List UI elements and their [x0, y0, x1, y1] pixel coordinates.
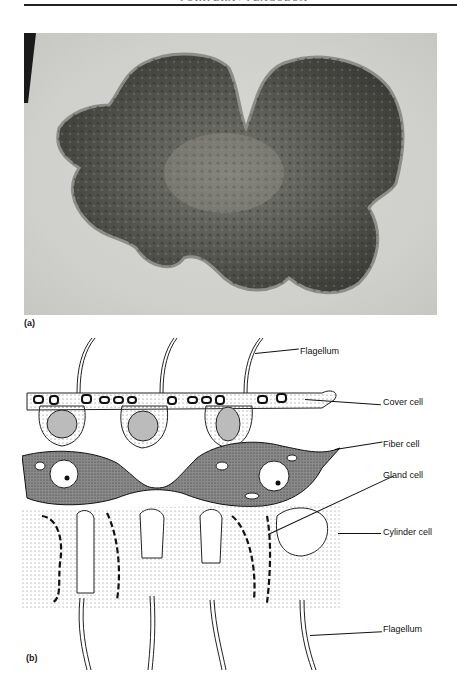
running-header: PORIFERA / PLACOZOA [180, 0, 308, 3]
leader-cylinder-cell [338, 533, 381, 534]
panel-b-label: (b) [26, 653, 38, 663]
cross-section-illustration [22, 338, 342, 670]
callout-cover-cell: Cover cell [383, 397, 423, 407]
leader-fiber-cell [335, 441, 383, 449]
callout-cylinder-cell: Cylinder cell [383, 527, 432, 537]
header-rule [24, 4, 457, 6]
callout-gland-cell: Gland cell [383, 470, 423, 480]
cross-section-drawing [22, 338, 342, 670]
callout-fiber-cell: Fiber cell [383, 439, 420, 449]
callout-flagellum-bottom: Flagellum [383, 624, 422, 634]
micrograph-image [24, 33, 437, 315]
micrograph-panel-a [24, 33, 437, 315]
callout-flagellum-top: Flagellum [300, 346, 339, 356]
panel-a-label: (a) [24, 318, 35, 328]
